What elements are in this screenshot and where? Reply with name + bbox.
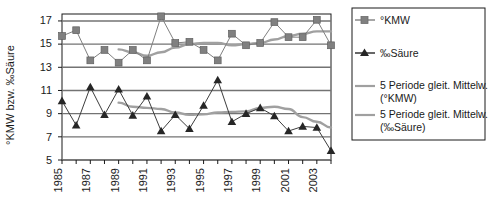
legend-label-movavg-saeure-line1: 5 Periode gleit. Mittelw. [380, 108, 488, 120]
data-point-marker [328, 42, 335, 49]
data-point-marker [285, 34, 292, 41]
x-tick-label: 1985 [52, 168, 64, 192]
x-tick-label: 2001 [279, 168, 291, 192]
x-tick-label: 1991 [137, 168, 149, 192]
data-point-marker [129, 47, 136, 54]
chart-container: °KMW bzw. ‰Säure 17 15 13 11 9 7 5 19851… [0, 0, 490, 207]
data-point-marker [158, 13, 165, 20]
legend-label-movavg-kmw-line2: (°KMW) [380, 92, 417, 104]
chart-legend: °KMW ‰Säure 5 Periode gleit. Mittelw. (°… [352, 8, 488, 140]
legend-label-movavg-saeure-line2: (‰Säure) [380, 121, 426, 133]
data-point-marker [115, 59, 122, 66]
data-point-marker [59, 33, 66, 40]
legend-label-kmw: °KMW [380, 14, 410, 26]
data-point-marker [299, 34, 306, 41]
data-point-marker [101, 47, 108, 54]
x-tick-label: 2003 [307, 168, 319, 192]
x-tick-label: 1999 [250, 168, 262, 192]
y-tick-label: 15 [40, 37, 52, 49]
y-tick-label: 17 [40, 14, 52, 26]
data-point-marker [73, 27, 80, 34]
x-tick-label: 1993 [165, 168, 177, 192]
data-point-marker [144, 57, 151, 64]
data-point-marker [243, 42, 250, 49]
x-tick-label: 1997 [222, 168, 234, 192]
y-tick-label: 9 [46, 107, 52, 119]
data-point-marker [313, 16, 320, 23]
y-tick-label: 5 [46, 154, 52, 166]
data-point-marker [257, 40, 264, 47]
chart-svg: °KMW bzw. ‰Säure 17 15 13 11 9 7 5 19851… [0, 0, 490, 207]
legend-label-movavg-kmw-line1: 5 Periode gleit. Mittelw. [380, 79, 488, 91]
x-tick-label: 1989 [109, 168, 121, 192]
y-tick-label: 11 [41, 84, 52, 96]
data-point-marker [87, 57, 94, 64]
data-point-marker [214, 57, 221, 64]
legend-label-saeure: ‰Säure [380, 47, 419, 59]
x-tick-label: 1995 [194, 168, 206, 192]
legend-marker-square-icon [361, 17, 368, 24]
data-point-marker [200, 47, 207, 54]
y-tick-label: 13 [40, 61, 52, 73]
data-point-marker [271, 19, 278, 26]
data-point-marker [228, 30, 235, 37]
data-point-marker [186, 38, 193, 45]
data-point-marker [172, 40, 179, 47]
y-axis-title: °KMW bzw. ‰Säure [4, 45, 16, 145]
x-tick-label: 1987 [80, 168, 92, 192]
y-tick-label: 7 [46, 131, 52, 143]
